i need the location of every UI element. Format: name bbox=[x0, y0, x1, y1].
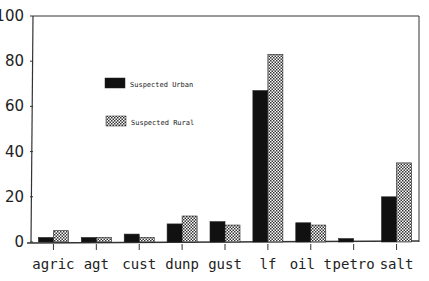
bar-chart: 020406080100 agricagtcustdunpgustlfoil t… bbox=[0, 0, 429, 281]
x-tick-label: cust bbox=[122, 256, 156, 272]
y-axis: 020406080100 bbox=[0, 7, 33, 251]
x-tick-label: gust bbox=[208, 256, 242, 272]
legend-swatch-rural bbox=[106, 116, 126, 126]
y-tick-label: 80 bbox=[5, 52, 24, 70]
bar-rural-lf bbox=[268, 54, 283, 242]
bar-rural-cust bbox=[139, 237, 154, 242]
legend-swatch-urban bbox=[105, 78, 125, 88]
plot-frame bbox=[27, 16, 419, 243]
y-tick-label: 20 bbox=[5, 188, 24, 206]
x-tick-label: dunp bbox=[165, 256, 199, 272]
bar-urban-agt bbox=[81, 237, 96, 242]
x-tick-label: agric bbox=[32, 256, 74, 272]
bar-urban-cust bbox=[124, 234, 139, 242]
bar-urban-gust bbox=[210, 222, 225, 242]
bar-urban-salt bbox=[382, 197, 397, 242]
x-tick-label: lf bbox=[259, 256, 276, 272]
bar-urban-agric bbox=[38, 237, 53, 242]
bar-urban-petro bbox=[339, 239, 354, 242]
bar-rural-salt bbox=[397, 163, 412, 242]
y-tick-label: 40 bbox=[5, 143, 24, 161]
bar-urban-oil-t bbox=[296, 223, 311, 242]
x-axis: agricagtcustdunpgustlfoil tpetrosalt bbox=[32, 244, 413, 272]
x-tick-label: salt bbox=[380, 256, 414, 272]
y-axis-line bbox=[31, 16, 33, 242]
x-tick-label: agt bbox=[84, 256, 109, 272]
y-tick-label: 60 bbox=[5, 97, 24, 115]
legend-label-rural: Suspected Rural bbox=[131, 119, 194, 127]
legend: Suspected UrbanSuspected Rural bbox=[105, 78, 194, 127]
bar-rural-oil-t bbox=[311, 225, 326, 242]
y-tick-label: 0 bbox=[14, 233, 24, 251]
bar-urban-dunp bbox=[167, 224, 182, 242]
legend-label-urban: Suspected Urban bbox=[130, 81, 193, 89]
bar-rural-dunp bbox=[182, 216, 197, 242]
bar-rural-agt bbox=[96, 237, 111, 242]
x-tick-label: petro bbox=[333, 256, 375, 272]
bar-rural-agric bbox=[53, 231, 68, 242]
bar-rural-gust bbox=[225, 225, 240, 242]
bar-urban-lf bbox=[253, 91, 268, 242]
x-tick-label: oil t bbox=[290, 256, 332, 272]
bars bbox=[38, 54, 411, 242]
y-tick-label: 100 bbox=[0, 7, 24, 25]
